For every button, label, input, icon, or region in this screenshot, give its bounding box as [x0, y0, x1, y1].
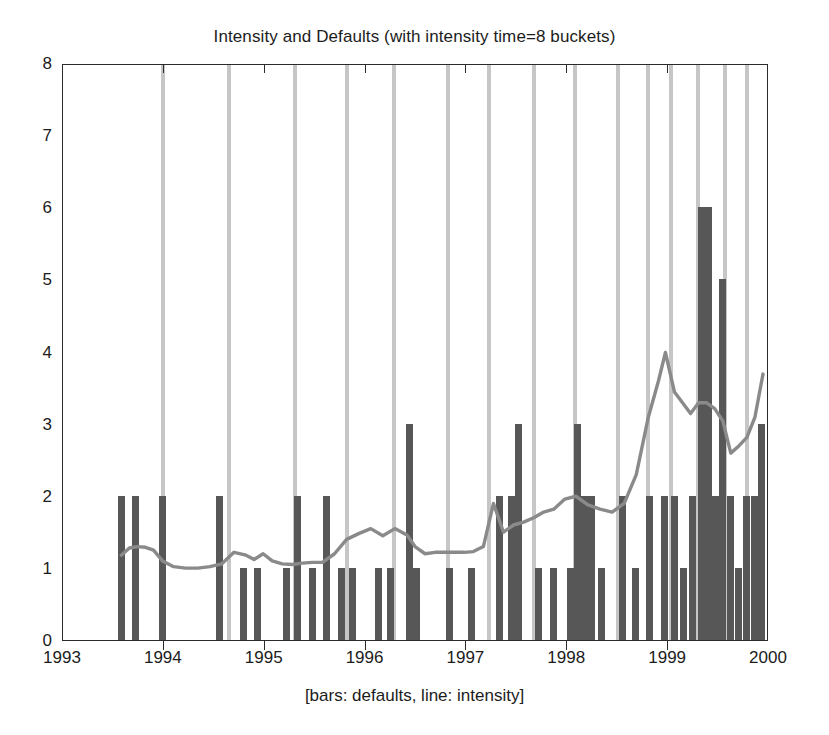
intensity-line-series — [63, 65, 767, 640]
x-tick-mark-top — [163, 64, 164, 73]
y-tick-label: 3 — [6, 415, 52, 435]
y-tick-label: 2 — [6, 487, 52, 507]
y-tick-label: 5 — [6, 270, 52, 290]
x-tick-mark-top — [365, 64, 366, 73]
x-tick-mark-top — [566, 64, 567, 73]
y-axis-labels: 012345678 — [0, 64, 52, 641]
x-tick-label: 1993 — [17, 648, 107, 668]
x-tick-mark-top — [465, 64, 466, 73]
x-tick-label: 2000 — [723, 648, 813, 668]
intensity-polyline — [121, 353, 763, 569]
x-tick-label: 1998 — [521, 648, 611, 668]
y-tick-label: 6 — [6, 198, 52, 218]
x-tick-label: 1995 — [219, 648, 309, 668]
chart-figure: Intensity and Defaults (with intensity t… — [0, 0, 829, 735]
y-tick-label: 1 — [6, 559, 52, 579]
x-tick-label: 1994 — [118, 648, 208, 668]
x-tick-label: 1996 — [320, 648, 410, 668]
plot-area — [62, 64, 768, 641]
x-tick-label: 1999 — [622, 648, 712, 668]
x-tick-label: 1997 — [420, 648, 510, 668]
y-tick-label: 8 — [6, 54, 52, 74]
chart-caption: [bars: defaults, line: intensity] — [0, 686, 829, 706]
x-tick-mark-top — [667, 64, 668, 73]
plot-inner — [63, 65, 767, 640]
y-tick-label: 4 — [6, 343, 52, 363]
y-tick-label: 7 — [6, 126, 52, 146]
chart-title: Intensity and Defaults (with intensity t… — [0, 27, 829, 47]
x-tick-mark-top — [264, 64, 265, 73]
